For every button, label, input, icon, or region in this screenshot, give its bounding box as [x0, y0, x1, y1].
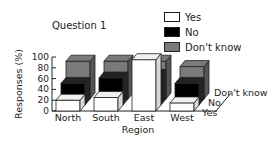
bar-yes-east	[132, 54, 161, 111]
x-tick-label: East	[134, 112, 155, 123]
y-tick-label: 80	[38, 63, 50, 73]
y-tick-label: 100	[32, 52, 49, 62]
y-axis-label: Responses (%)	[13, 49, 24, 119]
x-tick-label: North	[55, 112, 82, 123]
x-tick-label: West	[170, 112, 194, 123]
y-tick-label: 60	[38, 74, 50, 84]
y-tick-label: 20	[38, 95, 50, 105]
x-tick-label: South	[92, 112, 120, 123]
bar-yes-west	[170, 97, 199, 111]
depth-label-yes: Yes	[201, 107, 217, 118]
x-axis-label: Region	[122, 124, 155, 135]
y-tick-label: 40	[38, 84, 50, 94]
bar-yes-south	[94, 92, 123, 112]
depth-label-dont-know: Don't know	[214, 87, 268, 98]
y-tick-label: 0	[43, 106, 49, 116]
chart-plot: 020406080100Responses (%)NorthSouthEastW…	[0, 0, 276, 146]
bar-yes-north	[56, 94, 85, 111]
